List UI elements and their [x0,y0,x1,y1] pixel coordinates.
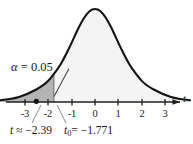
tick-label-0: 0 [87,108,103,119]
tick-label-3: 3 [157,108,173,119]
alpha-equals: = [18,60,31,74]
tick-label--2: -2 [40,108,56,119]
t-statistic-approx: ≈ [13,124,25,136]
curve-area-fill [0,9,190,102]
t-distribution-figure: α = 0.05 t ≈ −2.39 t0= −1.771 -3 -2 -1 0… [0,0,193,144]
t-statistic-annotation: t ≈ −2.39 [10,125,52,137]
t-statistic-value: −2.39 [25,124,52,136]
tick-label-2: 2 [134,108,150,119]
t-statistic-marker [34,99,39,104]
alpha-annotation: α = 0.05 [11,61,53,74]
t-critical-annotation: t0= −1.771 [64,125,113,138]
tick-label--1: -1 [64,108,80,119]
tick-label--3: -3 [17,108,33,119]
x-axis-label: t [183,93,186,104]
rejection-region-fill [0,74,54,102]
alpha-value: 0.05 [31,60,53,74]
t-critical-value: = −1.771 [71,124,113,136]
tick-label-1: 1 [110,108,126,119]
